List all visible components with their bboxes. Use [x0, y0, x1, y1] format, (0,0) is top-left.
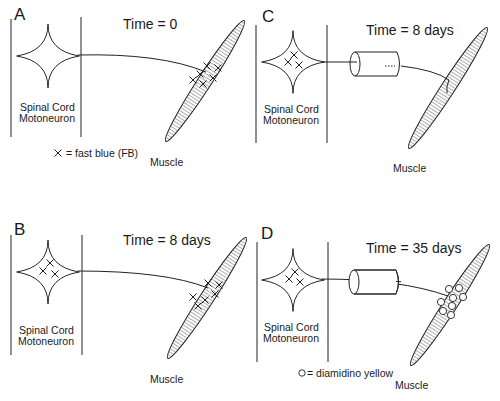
motoneuron-soma-icon	[262, 31, 325, 94]
muscle-icon	[403, 24, 493, 152]
fast-blue-markers-soma	[40, 260, 59, 278]
nerve-conduit-icon	[350, 52, 400, 76]
panel-letter: A	[14, 5, 26, 24]
nerve-conduit-icon	[349, 270, 401, 294]
legend-text: = fast blue (FB)	[66, 147, 138, 159]
circle-legend-icon	[299, 370, 305, 376]
panel-d: D Time = 35	[257, 224, 495, 391]
fast-blue-markers-soma	[285, 52, 303, 69]
motoneuron-soma-icon	[262, 249, 325, 312]
legend-text: = diamidino yellow	[307, 367, 394, 379]
fast-blue-markers-soma	[286, 269, 304, 286]
cell-label: Motoneuron	[263, 332, 319, 344]
muscle-label: Muscle	[393, 162, 426, 174]
time-label: Time = 8 days	[366, 22, 454, 38]
panel-letter: B	[14, 220, 25, 239]
cross-legend-icon	[55, 150, 62, 157]
muscle-label: Muscle	[395, 379, 428, 391]
time-label: Time = 0	[123, 16, 178, 32]
figure-canvas: A Time = 0 Spinal Cord Motoneuron = fast…	[0, 0, 500, 401]
motoneuron-soma-icon	[17, 24, 80, 88]
panel-b: B Time = 8 days Spinal Cord Motoneuron M…	[11, 220, 252, 385]
time-label: Time = 8 days	[123, 232, 211, 248]
panel-a: A Time = 0 Spinal Cord Motoneuron = fast…	[11, 5, 250, 168]
cell-label: Motoneuron	[19, 112, 75, 124]
panel-c: C Time = 8 days Spinal Cord Motoneuron M…	[256, 7, 493, 174]
muscle-icon	[160, 17, 250, 145]
cell-label: Motoneuron	[263, 114, 319, 126]
axon	[78, 55, 206, 72]
axon	[78, 271, 208, 288]
panel-letter: C	[262, 7, 274, 26]
motoneuron-soma-icon	[17, 240, 80, 304]
muscle-label: Muscle	[150, 156, 183, 168]
cell-label: Motoneuron	[18, 335, 74, 347]
muscle-label: Muscle	[150, 373, 183, 385]
time-label: Time = 35 days	[366, 240, 462, 256]
panel-letter: D	[261, 224, 273, 243]
diamidino-yellow-markers-muscle	[437, 284, 466, 318]
distal-axon	[401, 66, 449, 80]
